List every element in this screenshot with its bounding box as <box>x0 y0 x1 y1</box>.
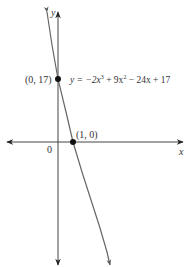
point-label-x-intercept: (1, 0) <box>76 130 98 140</box>
x-axis-label: x <box>179 147 183 157</box>
point-label-y-intercept: (0, 17) <box>25 75 52 85</box>
equation-label: y = −2x3 + 9x2 − 24x + 17 <box>70 74 170 86</box>
equation-prefix: y = −2x <box>70 75 101 85</box>
cubic-graph: y x 0 (0, 17) (1, 0) y = −2x3 + 9x2 − 24… <box>0 0 190 267</box>
equation-suffix: − 24x + 17 <box>126 75 170 85</box>
point-y-intercept <box>55 76 61 82</box>
origin-label: 0 <box>47 145 52 155</box>
y-axis-label: y <box>51 8 55 18</box>
equation-mid: + 9x <box>104 75 124 85</box>
